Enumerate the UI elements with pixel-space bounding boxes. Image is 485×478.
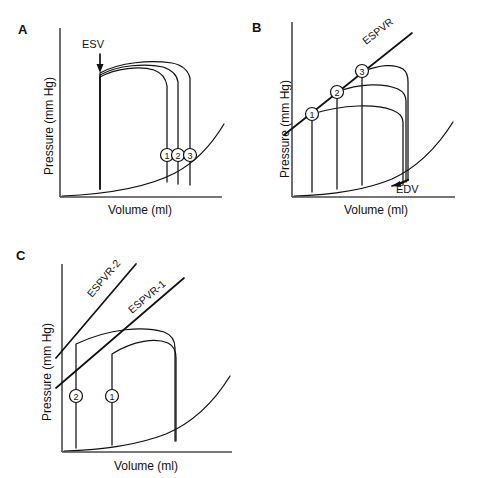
panel-a-marker-1-label: 1 bbox=[164, 151, 169, 161]
panel-b-espvr-line bbox=[284, 33, 412, 135]
panel-b-marker-3-label: 3 bbox=[359, 67, 364, 77]
panel-c: C Pressure (mm Hg) Volume (ml) ESPVR-2 E… bbox=[0, 236, 260, 478]
panel-b-espvr-label: ESPVR bbox=[360, 15, 396, 47]
panel-b-plot: ESPVR EDV 1 2 3 bbox=[240, 0, 485, 238]
panel-c-loop-1 bbox=[112, 341, 176, 445]
panel-b-loop-3 bbox=[362, 66, 408, 185]
panel-b-loop-1 bbox=[312, 106, 403, 192]
pv-loop-figure: A Pressure (mm Hg) Volume (ml) ESV 1 2 bbox=[0, 0, 485, 478]
panel-c-espvr1-line bbox=[56, 278, 184, 388]
panel-c-marker-2-label: 2 bbox=[73, 392, 78, 402]
panel-b-marker-2-label: 2 bbox=[334, 88, 339, 98]
panel-c-marker-1-label: 1 bbox=[109, 392, 114, 402]
panel-c-espvr2-label: ESPVR-2 bbox=[84, 257, 122, 299]
panel-c-edpvr-curve bbox=[64, 376, 230, 451]
panel-a-loop-1 bbox=[100, 68, 167, 189]
panel-b-loop-2 bbox=[337, 85, 406, 189]
panel-b-edpvr-curve bbox=[294, 122, 453, 196]
panel-a-marker-3-label: 3 bbox=[187, 151, 192, 161]
panel-a-edpvr-curve bbox=[62, 124, 224, 196]
panel-b-edv-label: EDV bbox=[396, 183, 419, 195]
panel-a-marker-2-label: 2 bbox=[175, 151, 180, 161]
panel-b-marker-1-label: 1 bbox=[309, 110, 314, 120]
panel-a-esv-label: ESV bbox=[82, 38, 105, 50]
panel-a-plot: ESV 1 2 3 bbox=[0, 0, 245, 238]
panel-b: B Pressure (mm Hg) Volume (ml) ESPVR EDV bbox=[240, 0, 485, 238]
panel-c-plot: ESPVR-2 ESPVR-1 2 1 bbox=[0, 236, 260, 478]
panel-a-loop-3 bbox=[100, 62, 190, 189]
panel-a: A Pressure (mm Hg) Volume (ml) ESV 1 2 bbox=[0, 0, 245, 238]
